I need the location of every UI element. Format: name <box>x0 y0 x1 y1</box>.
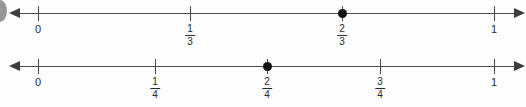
axis-tick <box>38 59 39 74</box>
number-line-fourths: 01424341 <box>0 0 526 54</box>
fraction-numerator: 2 <box>262 77 272 88</box>
fraction-denominator: 4 <box>262 90 272 101</box>
tick-label: 14 <box>150 77 160 101</box>
plotted-point[interactable] <box>263 62 272 71</box>
tick-label: 0 <box>35 77 41 88</box>
axis-tick <box>494 59 495 74</box>
fraction-numerator: 3 <box>375 77 385 88</box>
tick-label: 34 <box>375 77 385 101</box>
fraction-label: 34 <box>375 77 385 101</box>
arrow-right-icon <box>514 61 525 71</box>
arrow-left-icon <box>9 61 20 71</box>
fraction-numerator: 1 <box>150 77 160 88</box>
number-line-worksheet: 01323101424341 <box>0 0 526 107</box>
axis-tick <box>380 59 381 74</box>
fraction-label: 24 <box>262 77 272 101</box>
fraction-denominator: 4 <box>375 90 385 101</box>
fraction-label: 14 <box>150 77 160 101</box>
fraction-denominator: 4 <box>150 90 160 101</box>
axis-tick <box>155 59 156 74</box>
tick-label: 1 <box>491 77 497 88</box>
tick-label: 24 <box>262 77 272 101</box>
